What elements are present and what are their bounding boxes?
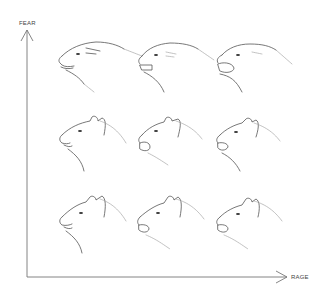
head-low-fear-low-rage [56,195,136,257]
animal-head-drawing-icon [212,115,292,177]
rage-axis-label: RAGE [291,274,309,280]
head-low-fear-high-rage [212,195,292,257]
animal-head-drawing-icon [56,40,136,102]
animal-head-drawing-icon [56,115,136,177]
head-low-fear-mid-rage [134,195,214,257]
fear-axis-label: FEAR [19,20,36,26]
head-mid-fear-low-rage [56,115,136,177]
animal-head-drawing-icon [212,195,292,257]
head-mid-fear-mid-rage [134,115,214,177]
animal-head-drawing-icon [56,195,136,257]
animal-head-drawing-icon [134,115,214,177]
animal-head-drawing-icon [212,40,292,102]
head-mid-fear-high-rage [212,115,292,177]
head-high-fear-low-rage [56,40,136,102]
animal-head-drawing-icon [134,195,214,257]
head-high-fear-high-rage [212,40,292,102]
animal-head-drawing-icon [134,40,214,102]
head-high-fear-mid-rage [134,40,214,102]
